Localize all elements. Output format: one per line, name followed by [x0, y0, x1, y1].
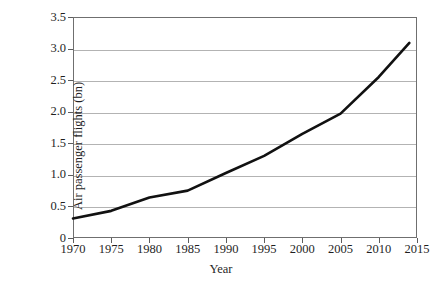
x-tick-mark	[73, 238, 74, 243]
y-tick-mark	[68, 80, 73, 81]
x-tick-mark	[149, 238, 150, 243]
x-tick-mark	[417, 238, 418, 243]
x-tick-label: 2015	[395, 243, 439, 256]
y-tick-label: 3.0	[30, 42, 66, 55]
x-axis-title: Year	[0, 262, 442, 277]
x-tick-mark	[264, 238, 265, 243]
x-tick-mark	[111, 238, 112, 243]
y-tick-label: 0.5	[30, 200, 66, 213]
y-tick-mark	[68, 49, 73, 50]
x-tick-mark	[379, 238, 380, 243]
y-tick-label: 2.5	[30, 74, 66, 87]
y-axis-title: Air passenger flights (bn)	[71, 82, 86, 210]
y-tick-label: 2.0	[30, 105, 66, 118]
y-tick-mark	[68, 17, 73, 18]
series-layer	[73, 17, 417, 238]
x-tick-mark	[302, 238, 303, 243]
x-tick-mark	[226, 238, 227, 243]
series-line-air-passenger-flights	[73, 43, 409, 219]
y-tick-label: 1.0	[30, 168, 66, 181]
x-tick-mark	[188, 238, 189, 243]
y-tick-label: 3.5	[30, 11, 66, 24]
y-tick-label: 1.5	[30, 137, 66, 150]
line-chart: 00.51.01.52.02.53.03.5 Air passenger fli…	[0, 0, 442, 292]
x-tick-mark	[341, 238, 342, 243]
